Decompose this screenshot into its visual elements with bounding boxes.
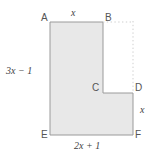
vertex-label-c: C bbox=[92, 83, 99, 93]
dimension-label-bottom: 2x + 1 bbox=[74, 141, 100, 151]
l-shape-polygon bbox=[50, 22, 133, 135]
vertex-label-a: A bbox=[41, 13, 48, 23]
vertex-label-f: F bbox=[135, 130, 141, 140]
vertex-label-b: B bbox=[105, 13, 112, 23]
vertex-label-e: E bbox=[41, 130, 48, 140]
figure-canvas bbox=[0, 0, 157, 162]
vertex-label-d: D bbox=[135, 83, 142, 93]
dimension-label-right: x bbox=[140, 105, 144, 115]
dimension-label-left: 3x − 1 bbox=[6, 66, 32, 76]
dimension-label-top: x bbox=[71, 8, 75, 18]
geometry-figure: A B C D E F x 3x − 1 2x + 1 x bbox=[0, 0, 157, 162]
